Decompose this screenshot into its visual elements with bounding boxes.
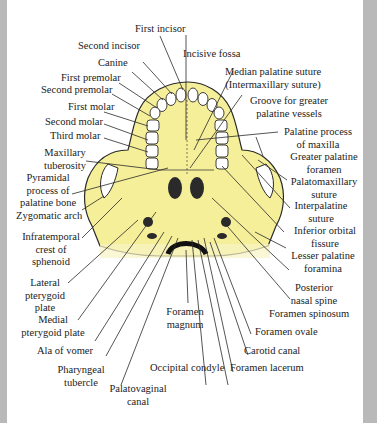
label-greater-palatine-foramen: Greater palatine foramen <box>288 151 360 176</box>
label-line: tuberosity <box>40 160 90 173</box>
label-foramen-spinosum: Foramen spinosum <box>269 308 349 321</box>
label-lateral-pterygoid-plate: Lateral pterygoid plate <box>22 277 68 315</box>
label-line: nasal spine <box>284 295 344 308</box>
label-third-molar: Third molar <box>50 130 100 143</box>
label-line: Maxillary <box>40 147 90 160</box>
label-line: Medial <box>18 314 88 327</box>
label-medial-pterygoid-plate: Medial pterygoid plate <box>18 314 88 339</box>
label-line: magnum <box>162 319 208 332</box>
label-first-molar: First molar <box>68 101 114 114</box>
label-line: Groove for greater <box>244 95 334 108</box>
label-line: Infratemporal <box>22 231 80 244</box>
label-occipital-condyle: Occipital condyle <box>150 362 224 375</box>
label-maxillary-tuberosity: Maxillary tuberosity <box>40 147 90 172</box>
label-line: palatine bone <box>20 197 76 210</box>
label-first-premolar: First premolar <box>61 72 121 85</box>
label-line: foramen <box>288 164 360 177</box>
label-first-incisor: First incisor <box>135 23 185 36</box>
label-line: canal <box>108 396 168 409</box>
label-incisive-fossa: Incisive fossa <box>183 48 240 61</box>
label-line: Inferior orbital <box>290 225 360 238</box>
label-line: Palatovaginal <box>108 383 168 396</box>
label-line: Interpalatine <box>290 200 352 213</box>
label-palatovaginal-canal: Palatovaginal canal <box>108 383 168 408</box>
label-line: Pharyngeal <box>56 364 106 377</box>
label-second-molar: Second molar <box>45 116 103 129</box>
label-posterior-nasal-spine: Posterior nasal spine <box>284 282 344 307</box>
label-line: crest of <box>22 244 80 257</box>
label-interpalatine-suture: Interpalatine suture <box>290 200 352 225</box>
label-pyramidal-process: Pyramidal process of palatine bone <box>20 172 76 210</box>
label-line: Median palatine suture <box>218 66 328 79</box>
left-choana <box>168 177 182 199</box>
label-line: Pyramidal <box>20 172 76 185</box>
label-line: Greater palatine <box>288 151 360 164</box>
label-line: plate <box>22 302 68 315</box>
right-foramen-ovale <box>221 217 231 227</box>
label-line: pterygoid <box>22 290 68 303</box>
label-foramen-lacerum: Foramen lacerum <box>230 362 304 375</box>
label-line: foramina <box>288 263 358 276</box>
label-line: sphenoid <box>22 256 80 269</box>
label-palatomaxillary-suture: Palatomaxillary suture <box>288 176 360 201</box>
label-foramen-ovale: Foramen ovale <box>255 326 318 339</box>
label-line: Lesser palatine <box>288 250 358 263</box>
label-ala-of-vomer: Ala of vomer <box>37 345 93 358</box>
label-line: Posterior <box>284 282 344 295</box>
label-palatine-process-maxilla: Palatine process of maxilla <box>278 126 358 151</box>
label-second-premolar: Second premolar <box>41 84 112 97</box>
label-line: of maxilla <box>278 139 358 152</box>
label-line: (Intermaxillary suture) <box>218 79 328 92</box>
label-line: process of <box>20 185 76 198</box>
label-line: pterygoid plate <box>18 327 88 340</box>
label-carotid-canal: Carotid canal <box>244 345 300 358</box>
label-line: Palatine process <box>278 126 358 139</box>
label-zygomatic-arch: Zygomatic arch <box>16 210 82 223</box>
label-lesser-palatine-foramina: Lesser palatine foramina <box>288 250 358 275</box>
label-line: Lateral <box>22 277 68 290</box>
label-line: suture <box>290 213 352 226</box>
label-foramen-magnum: Foramen magnum <box>162 306 208 331</box>
label-pharyngeal-tubercle: Pharyngeal tubercle <box>56 364 106 389</box>
label-inferior-orbital-fissure: Inferior orbital fissure <box>290 225 360 250</box>
label-infratemporal-crest: Infratemporal crest of sphenoid <box>22 231 80 269</box>
label-line: palatine vessels <box>244 108 334 121</box>
label-second-incisor: Second incisor <box>78 40 140 53</box>
label-line: Foramen <box>162 306 208 319</box>
label-line: fissure <box>290 238 360 251</box>
right-choana <box>190 177 204 199</box>
right-carotid <box>217 233 227 239</box>
label-median-palatine-suture: Median palatine suture (Intermaxillary s… <box>218 66 328 91</box>
label-line: Palatomaxillary <box>288 176 360 189</box>
label-groove-greater-palatine-vessels: Groove for greater palatine vessels <box>244 95 334 120</box>
label-canine: Canine <box>98 57 128 70</box>
left-carotid <box>147 233 157 239</box>
label-line: tubercle <box>56 377 106 390</box>
